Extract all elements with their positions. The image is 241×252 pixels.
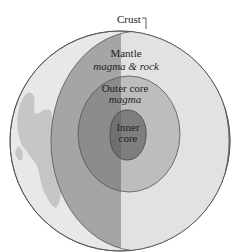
crust-leader-line [142, 18, 146, 29]
crust-label: Crust [117, 13, 141, 25]
outer-core-sublabel: magma [109, 93, 142, 105]
earth-layers-diagram: Crust Mantle magma & rock Outer core mag… [0, 0, 241, 252]
mantle-sublabel: magma & rock [93, 60, 160, 72]
inner-core-label-line2: core [119, 132, 138, 144]
mantle-label: Mantle [110, 47, 141, 59]
